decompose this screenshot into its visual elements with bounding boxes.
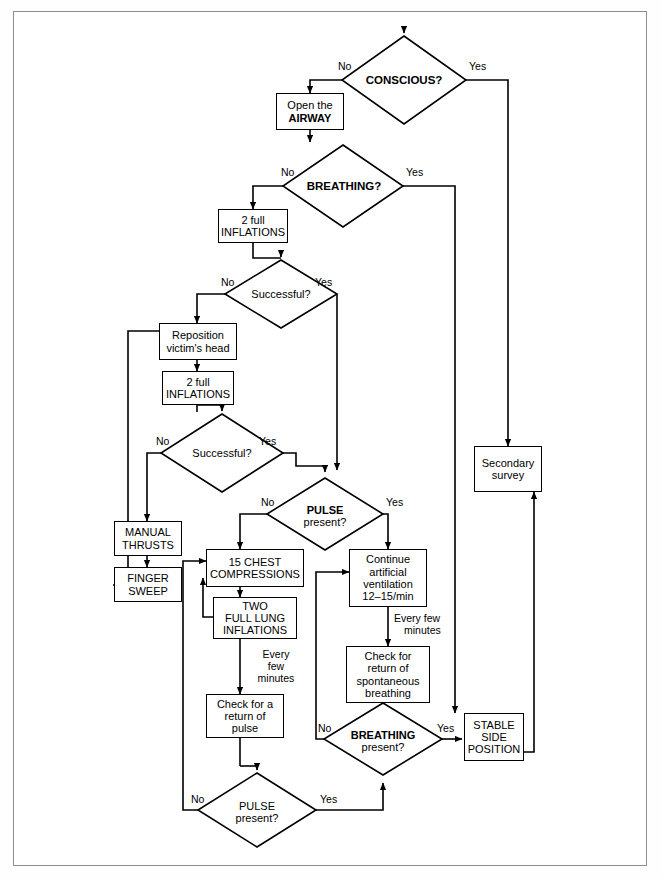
edge-stable-to-secondary [524, 492, 534, 752]
ventilation-line3: ventilation [363, 578, 413, 590]
manual-thrusts-line2: THRUSTS [122, 539, 174, 551]
stable-line3: POSITION [468, 743, 521, 755]
check-breathing-line2: return of [368, 662, 409, 674]
successful-2-diamond-shape [161, 414, 283, 492]
check-pulse-line1: Check for a [217, 698, 273, 710]
label-every-few-minutes-right: Every few minutes [394, 612, 456, 636]
two-full-lung-inflations-box[interactable]: TWO FULL LUNG INFLATIONS [213, 597, 297, 639]
pulse-bottom-diamond-shape [198, 773, 316, 847]
reposition-line2: victim's head [166, 342, 229, 354]
inflations1-line1: 2 full [241, 214, 264, 226]
stable-line1: STABLE [473, 719, 514, 731]
label-every-few-minutes-left: Every few minutes [249, 648, 303, 684]
every-few-left-l2: few [249, 660, 303, 672]
flowchart-connectors [0, 0, 662, 879]
pulse-top-diamond-shape [267, 478, 383, 550]
check-pulse-line3: pulse [232, 722, 258, 734]
label-successful1-no: No [221, 276, 234, 288]
compressions-line2: COMPRESSIONS [210, 568, 300, 580]
edge-breathing-top-no [253, 186, 283, 209]
check-pulse-box[interactable]: Check for a return of pulse [206, 694, 284, 738]
inflations2-line2: INFLATIONS [166, 388, 230, 400]
successful-1-diamond-shape [225, 260, 337, 328]
label-pulse-bottom-no: No [191, 793, 204, 805]
label-pulse-bottom-yes: Yes [320, 793, 337, 805]
check-breathing-box[interactable]: Check for return of spontaneous breathin… [346, 646, 430, 703]
two-full-inflations-2-box[interactable]: 2 full INFLATIONS [162, 371, 234, 405]
check-pulse-line2: return of [225, 710, 266, 722]
open-airway-box[interactable]: Open the AIRWAY [276, 93, 344, 130]
secondary-survey-box[interactable]: Secondary survey [474, 446, 542, 492]
edge-successful2-no [147, 453, 161, 521]
continue-ventilation-box[interactable]: Continue artificial ventilation 12–15/mi… [349, 549, 427, 607]
edge-successful1-no [197, 294, 225, 323]
reposition-box[interactable]: Reposition victim's head [159, 323, 237, 360]
every-few-right-l2: minutes [394, 624, 456, 636]
label-breathing-bottom-no: No [318, 722, 331, 734]
label-successful2-no: No [156, 435, 169, 447]
manual-thrusts-line1: MANUAL [125, 526, 171, 538]
label-breathing-top-no: No [281, 166, 294, 178]
edge-successful2-yes [283, 453, 325, 472]
edge-conscious-no [310, 80, 342, 93]
ventilation-line2: artificial [369, 566, 406, 578]
inflations2-line1: 2 full [186, 376, 209, 388]
secondary-line1: Secondary [482, 457, 535, 469]
check-breathing-line1: Check for [364, 650, 411, 662]
label-breathing-top-yes: Yes [406, 166, 423, 178]
secondary-line2: survey [492, 469, 524, 481]
label-breathing-bottom-yes: Yes [437, 722, 454, 734]
edge-inflations1-to-successful1a [253, 243, 281, 258]
check-breathing-line3: spontaneous [357, 675, 420, 687]
label-conscious-yes: Yes [469, 60, 486, 72]
inflations1-line2: INFLATIONS [221, 226, 285, 238]
lung-line2: FULL LUNG [225, 612, 285, 624]
lung-line3: INFLATIONS [223, 624, 287, 636]
every-few-left-l3: minutes [249, 672, 303, 684]
every-few-right-l1: Every few [394, 612, 456, 624]
open-airway-line1: Open the [287, 99, 332, 111]
label-successful2-yes: Yes [259, 435, 276, 447]
ventilation-line4: 12–15/min [362, 590, 413, 602]
compressions-line1: 15 CHEST [229, 556, 282, 568]
ventilation-line1: Continue [366, 553, 410, 565]
every-few-left-l1: Every [249, 648, 303, 660]
check-breathing-line4: breathing [365, 687, 411, 699]
reposition-line1: Reposition [172, 329, 224, 341]
finger-sweep-box[interactable]: FINGER SWEEP [114, 567, 182, 602]
label-successful1-yes: Yes [315, 276, 332, 288]
conscious-diamond-shape [342, 36, 466, 124]
stable-side-position-box[interactable]: STABLE SIDE POSITION [464, 713, 524, 761]
edge-inflations2-to-successful2 [197, 405, 222, 411]
stable-line2: SIDE [481, 731, 507, 743]
chest-compressions-box[interactable]: 15 CHEST COMPRESSIONS [206, 549, 304, 587]
open-airway-line2: AIRWAY [289, 112, 332, 124]
breathing-bottom-diamond-shape [324, 703, 442, 775]
finger-sweep-line1: FINGER [127, 572, 169, 584]
edge-pulse-top-no [240, 514, 267, 549]
label-pulse-top-no: No [261, 496, 274, 508]
edge-breathing-bottom-no [316, 572, 349, 739]
finger-sweep-line2: SWEEP [128, 585, 168, 597]
lung-line1: TWO [242, 600, 268, 612]
label-conscious-no: No [338, 60, 351, 72]
breathing-top-diamond-shape [283, 145, 403, 227]
edge-pulse-top-yes [383, 514, 388, 549]
label-pulse-top-yes: Yes [386, 496, 403, 508]
two-full-inflations-1-box[interactable]: 2 full INFLATIONS [218, 209, 288, 243]
manual-thrusts-box[interactable]: MANUAL THRUSTS [114, 521, 182, 556]
flowchart-page: CONSCIOUS? BREATHING? Successful? Succes… [0, 0, 662, 879]
edge-conscious-yes [466, 80, 508, 446]
